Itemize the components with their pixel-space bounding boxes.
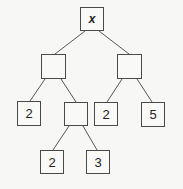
tree-node-lr-left: 2 [40,150,64,174]
edge-right-rightleft [107,79,122,102]
tree-node-right-right: 5 [141,102,165,127]
tree-node-lr-right: 3 [86,150,110,174]
edge-left-leftleft [30,79,45,101]
edge-right-rightright [137,79,152,102]
tree-node-left-left: 2 [17,101,41,126]
tree-node-root: x [80,7,104,31]
edge-leftright-3 [83,126,97,150]
edge-left-leftright [61,79,76,102]
edge-root-left [55,31,85,54]
edge-leftright-2 [53,126,69,150]
tree-node-right-left: 2 [94,102,118,126]
tree-node-left [41,54,66,79]
edge-root-right [99,31,129,54]
tree-node-right [117,54,142,79]
tree-node-left-right [64,102,88,126]
